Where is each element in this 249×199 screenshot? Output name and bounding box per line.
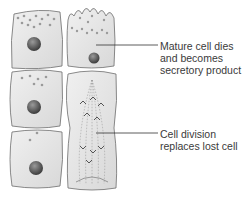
cell-diagram — [0, 0, 249, 199]
nucleus-icon — [27, 100, 41, 114]
label-mature-cell: Mature cell dies and becomes secretory p… — [160, 40, 241, 76]
label-line: secretory product — [160, 64, 241, 76]
nucleus-icon — [29, 161, 43, 175]
cell-left-top — [11, 10, 62, 68]
nucleus-icon — [27, 37, 41, 51]
cell-secreting — [67, 8, 115, 68]
cell-dividing — [66, 71, 116, 190]
label-line: and becomes — [160, 52, 241, 64]
label-line: replaces lost cell — [160, 140, 238, 152]
cell-left-bottom — [10, 130, 63, 188]
nucleus-icon — [89, 53, 100, 64]
label-line: Mature cell dies — [160, 40, 241, 52]
label-line: Cell division — [160, 128, 238, 140]
label-cell-division: Cell division replaces lost cell — [160, 128, 238, 152]
cell-left-middle — [10, 70, 63, 128]
